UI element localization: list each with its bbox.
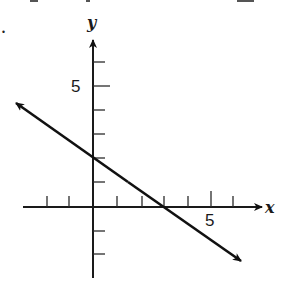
- graph-line-lower-arrow: [128, 182, 241, 261]
- x-ticks: [47, 191, 233, 207]
- graph-line-upper-arrow: [16, 103, 128, 182]
- x-tick-label-5: 5: [205, 211, 214, 230]
- item-marker: .: [1, 15, 6, 37]
- y-axis-label: y: [86, 13, 98, 32]
- y-tick-label-5: 5: [71, 77, 80, 96]
- coordinate-plane: . 5 5 y x: [0, 0, 290, 295]
- x-axis-label: x: [264, 198, 275, 217]
- cropped-text-fragments: [30, 0, 254, 2]
